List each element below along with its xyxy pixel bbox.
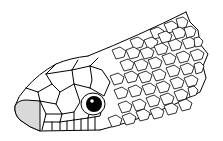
eye (81, 93, 105, 115)
rostral-scale (15, 100, 40, 131)
snake-head-illustration (0, 0, 223, 141)
body-scales (88, 12, 208, 130)
